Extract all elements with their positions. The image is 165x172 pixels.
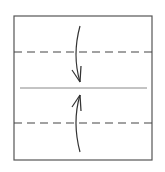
- fold-diagram: [0, 0, 165, 172]
